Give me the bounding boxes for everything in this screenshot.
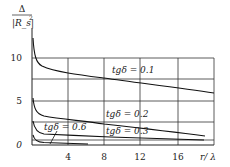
y-label-exponent: 2 bbox=[29, 14, 33, 21]
curve-tg-0.6 bbox=[33, 135, 88, 144]
annotation-tg-0.2: tgδ = 0.2 bbox=[106, 109, 149, 119]
x-tick-8: 8 bbox=[101, 152, 107, 162]
x-tick-12: 12 bbox=[134, 152, 145, 162]
annotation-tg-0.6: tgδ = 0.6 bbox=[44, 122, 87, 132]
x-tick-4: 4 bbox=[65, 152, 71, 162]
chart: Δ |R_s| 2 10 5 0 4 8 12 16 r/ λ tgδ = 0.… bbox=[0, 0, 230, 167]
y-tick-5: 5 bbox=[16, 96, 22, 106]
y-tick-10: 10 bbox=[11, 53, 23, 63]
x-label: r/ λ bbox=[200, 152, 216, 162]
annotation-tg-0.3: tgδ = 0.3 bbox=[106, 126, 149, 136]
y-tick-0: 0 bbox=[16, 140, 22, 150]
annotation-tg-0.1: tgδ = 0.1 bbox=[112, 65, 154, 75]
x-tick-16: 16 bbox=[172, 152, 184, 162]
leader-tg-0.6 bbox=[50, 131, 57, 144]
y-label-numerator: Δ bbox=[19, 4, 26, 14]
